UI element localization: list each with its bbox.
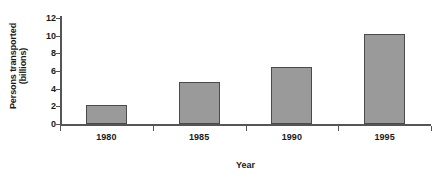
y-tick-mark xyxy=(56,124,61,125)
y-tick-label: 6 xyxy=(36,67,56,76)
x-tick-mark xyxy=(246,126,247,131)
x-tick-mark xyxy=(338,126,339,131)
bar-chart: Persons transported (billions) 024681012… xyxy=(0,0,442,181)
y-tick-label: 4 xyxy=(36,85,56,94)
y-axis-tick-labels: 024681012 xyxy=(36,13,56,125)
x-axis-title: Year xyxy=(60,160,431,170)
y-axis-title-line-1: Persons transported xyxy=(8,23,18,109)
bar xyxy=(271,67,312,124)
x-axis-tick-labels: 1980198519901995 xyxy=(60,132,431,146)
y-tick-label: 12 xyxy=(36,14,56,23)
plot-area xyxy=(60,18,431,124)
y-tick-mark xyxy=(56,106,61,107)
x-tick-label: 1980 xyxy=(60,132,153,142)
x-tick-mark xyxy=(153,126,154,131)
y-tick-mark xyxy=(56,53,61,54)
y-tick-mark xyxy=(56,71,61,72)
bar xyxy=(179,82,220,124)
y-tick-label: 10 xyxy=(36,32,56,41)
x-tick-mark xyxy=(431,126,432,131)
y-axis-title-line-2: (billions) xyxy=(18,23,28,109)
y-axis-title: Persons transported (billions) xyxy=(0,0,36,132)
y-tick-label: 2 xyxy=(36,102,56,111)
bar xyxy=(86,105,127,124)
x-tick-label: 1995 xyxy=(338,132,431,142)
y-tick-mark xyxy=(56,89,61,90)
x-tick-label: 1990 xyxy=(246,132,339,142)
y-tick-mark xyxy=(56,36,61,37)
y-tick-label: 8 xyxy=(36,49,56,58)
x-tick-mark xyxy=(60,126,61,131)
bar xyxy=(364,34,405,124)
x-tick-label: 1985 xyxy=(153,132,246,142)
y-tick-mark xyxy=(56,18,61,19)
y-tick-label: 0 xyxy=(36,120,56,129)
